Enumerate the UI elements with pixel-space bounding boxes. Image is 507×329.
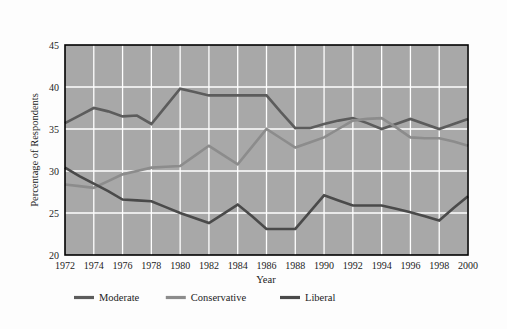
x-tick-label: 1990 [314,260,334,271]
y-axis-tick-labels: 202530354045 [49,40,59,261]
x-tick-label: 1976 [113,260,133,271]
x-tick-label: 1974 [84,260,104,271]
x-tick-label: 1972 [55,260,75,271]
y-tick-label: 20 [49,250,59,261]
x-tick-label: 1978 [141,260,161,271]
legend-label-moderate: Moderate [99,292,140,303]
x-tick-label: 1986 [257,260,277,271]
legend-label-conservative: Conservative [191,292,247,303]
y-axis-title: Percentage of Respondents [29,93,40,207]
x-axis-tick-labels: 1972197419761978198019821984198619881990… [55,260,478,271]
x-tick-label: 1984 [228,260,248,271]
y-tick-label: 40 [49,82,59,93]
x-tick-label: 1994 [372,260,392,271]
legend-label-liberal: Liberal [305,292,335,303]
x-tick-label: 1992 [343,260,363,271]
chart-legend: ModerateConservativeLiberal [74,292,335,303]
x-tick-label: 2000 [458,260,478,271]
x-tick-label: 1982 [199,260,219,271]
y-tick-label: 30 [49,166,59,177]
chart-figure: 202530354045 197219741976197819801982198… [0,0,507,329]
x-tick-label: 1988 [285,260,305,271]
y-tick-label: 25 [49,208,59,219]
x-tick-label: 1980 [170,260,190,271]
y-tick-label: 35 [49,124,59,135]
x-tick-label: 1996 [400,260,420,271]
x-tick-label: 1998 [429,260,449,271]
line-chart: 202530354045 197219741976197819801982198… [0,0,507,329]
x-axis-title: Year [256,274,276,285]
y-tick-label: 45 [49,40,59,51]
